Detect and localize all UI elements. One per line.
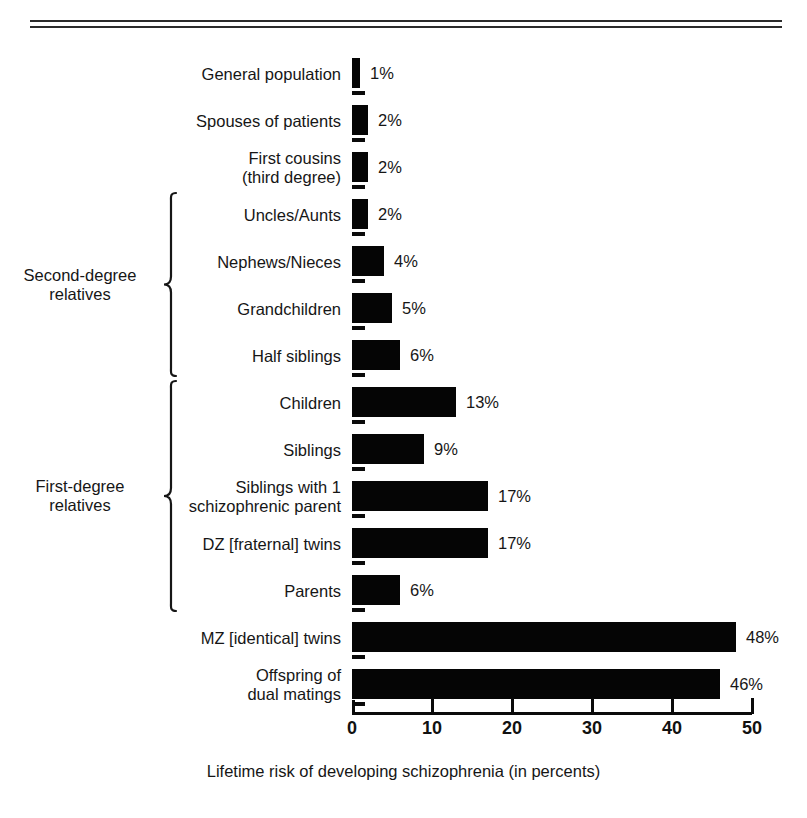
bar	[352, 293, 392, 323]
bar	[352, 340, 400, 370]
bar-row: General population1%	[0, 58, 807, 105]
bar-category-label: Spouses of patients	[41, 112, 341, 131]
bar-value-label: 46%	[730, 669, 763, 699]
x-axis-line	[352, 712, 752, 715]
bar-value-label: 48%	[746, 622, 779, 652]
bar-value-label: 13%	[466, 387, 499, 417]
bar-value-label: 2%	[378, 152, 402, 182]
row-tick-nub	[352, 326, 365, 330]
bar	[352, 481, 488, 511]
bar	[352, 575, 400, 605]
bar	[352, 105, 368, 135]
group-label: First-degree relatives	[0, 477, 160, 515]
row-tick-nub	[352, 467, 365, 471]
row-tick-nub	[352, 91, 365, 95]
bar	[352, 199, 368, 229]
relative-group: First-degree relatives	[0, 379, 190, 613]
row-tick-nub	[352, 608, 365, 612]
row-tick-nub	[352, 420, 365, 424]
bar-value-label: 6%	[410, 340, 434, 370]
bar	[352, 669, 720, 699]
bar	[352, 622, 736, 652]
bar-category-label: General population	[41, 65, 341, 84]
bar	[352, 152, 368, 182]
curly-brace-icon	[160, 379, 182, 613]
row-tick-nub	[352, 561, 365, 565]
bar-row: Spouses of patients2%	[0, 105, 807, 152]
bar-value-label: 6%	[410, 575, 434, 605]
bar	[352, 434, 424, 464]
bar	[352, 387, 456, 417]
x-axis-tick-label: 40	[662, 718, 682, 739]
bar-category-label: First cousins (third degree)	[41, 149, 341, 187]
curly-brace-icon	[160, 191, 182, 378]
x-axis-tick	[671, 698, 674, 714]
bar-row: Offspring of dual matings46%	[0, 669, 807, 716]
bar-category-label: Offspring of dual matings	[41, 666, 341, 704]
row-tick-nub	[352, 514, 365, 518]
bar-value-label: 4%	[394, 246, 418, 276]
x-axis-tick-label: 10	[422, 718, 442, 739]
row-tick-nub	[352, 279, 365, 283]
x-axis-tick	[511, 698, 514, 714]
bar-value-label: 1%	[370, 58, 394, 88]
bar-value-label: 5%	[402, 293, 426, 323]
row-tick-nub	[352, 185, 365, 189]
row-tick-nub	[352, 138, 365, 142]
bar-row: MZ [identical] twins48%	[0, 622, 807, 669]
x-axis-tick	[751, 698, 754, 714]
row-tick-nub	[352, 232, 365, 236]
x-axis-tick	[431, 698, 434, 714]
bar-chart: General population1%Spouses of patients2…	[0, 0, 807, 818]
bar-value-label: 2%	[378, 199, 402, 229]
bar-value-label: 17%	[498, 528, 531, 558]
x-axis-tick-label: 30	[582, 718, 602, 739]
bar	[352, 246, 384, 276]
bar-value-label: 9%	[434, 434, 458, 464]
x-axis-tick-label: 50	[742, 718, 762, 739]
relative-group: Second-degree relatives	[0, 191, 190, 378]
row-tick-nub	[352, 655, 365, 659]
bar-category-label: MZ [identical] twins	[41, 629, 341, 648]
group-label: Second-degree relatives	[0, 266, 160, 304]
x-axis-tick	[591, 698, 594, 714]
bar	[352, 528, 488, 558]
chart-caption: Lifetime risk of developing schizophreni…	[0, 762, 807, 781]
x-axis-tick-label: 20	[502, 718, 522, 739]
bar-value-label: 2%	[378, 105, 402, 135]
bar-value-label: 17%	[498, 481, 531, 511]
row-tick-nub	[352, 373, 365, 377]
bar	[352, 58, 360, 88]
x-axis-tick-label: 0	[347, 718, 357, 739]
